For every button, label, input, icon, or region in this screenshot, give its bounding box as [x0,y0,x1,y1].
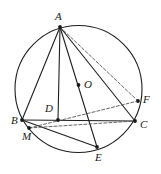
geometry-figure: A O D B C F M E [0,0,161,174]
point-label-m: M [22,131,31,142]
segment-AC [60,27,135,121]
point-label-d: D [45,103,53,114]
point-marker-a [58,25,62,29]
point-marker-d [56,118,60,122]
point-marker-o [77,83,81,87]
point-label-o: O [84,79,92,90]
segment-AD [58,27,60,120]
point-label-e: E [95,152,102,163]
point-label-b: B [11,115,18,126]
point-marker-f [136,99,140,103]
point-label-a: A [55,11,62,22]
point-marker-b [20,118,24,122]
point-markers-layer [20,25,140,149]
point-label-c: C [140,119,147,130]
geometry-canvas [0,0,161,174]
segment-BC [22,120,135,121]
point-label-f: F [143,94,150,105]
point-marker-c [133,119,137,123]
point-marker-e [95,145,99,149]
segment-AB [22,27,60,120]
